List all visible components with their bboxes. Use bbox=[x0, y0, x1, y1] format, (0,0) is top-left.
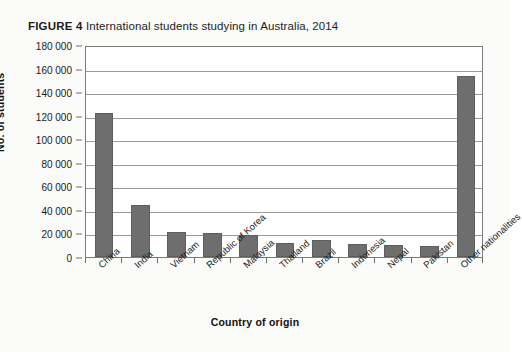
y-axis-tick-mark bbox=[76, 187, 82, 188]
y-axis-tick-label: 140 000 bbox=[36, 88, 72, 99]
y-axis-tick-label: 160 000 bbox=[36, 64, 72, 75]
bar[interactable] bbox=[457, 76, 476, 257]
y-axis-tick-mark bbox=[76, 69, 82, 70]
y-axis-tick-label: 0 bbox=[66, 253, 72, 264]
y-axis-tick-mark bbox=[76, 258, 82, 259]
y-axis-tick-label: 100 000 bbox=[36, 135, 72, 146]
y-axis-tick-label: 120 000 bbox=[36, 111, 72, 122]
y-axis-tick-labels: 020 00040 00060 00080 000100 000120 0001… bbox=[0, 46, 82, 258]
y-axis-tick-mark bbox=[76, 93, 82, 94]
figure-caption: FIGURE 4 International students studying… bbox=[28, 20, 338, 32]
bars-layer bbox=[86, 47, 482, 257]
figure-title: International students studying in Austr… bbox=[86, 20, 338, 32]
y-axis-tick-label: 40 000 bbox=[41, 205, 72, 216]
figure-number: FIGURE 4 bbox=[28, 20, 83, 32]
y-axis-tick-label: 180 000 bbox=[36, 41, 72, 52]
y-axis-tick-mark bbox=[76, 234, 82, 235]
y-axis-tick-mark bbox=[76, 210, 82, 211]
y-axis-tick-mark bbox=[76, 140, 82, 141]
y-axis-tick-label: 20 000 bbox=[41, 229, 72, 240]
y-axis-tick-mark bbox=[76, 116, 82, 117]
y-axis-tick-mark bbox=[76, 163, 82, 164]
x-axis-title: Country of origin bbox=[0, 316, 510, 328]
y-axis-tick-mark bbox=[76, 46, 82, 47]
plot-area bbox=[85, 46, 483, 258]
y-axis-tick-label: 60 000 bbox=[41, 182, 72, 193]
bar[interactable] bbox=[95, 113, 114, 257]
y-axis-tick-label: 80 000 bbox=[41, 158, 72, 169]
